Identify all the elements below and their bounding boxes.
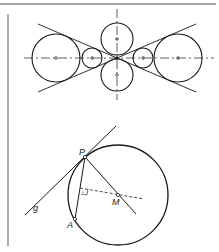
tangent-construction-figure — [25, 126, 168, 245]
center-marker — [55, 57, 58, 60]
circle-large-left — [32, 34, 80, 82]
label-g: g — [33, 203, 38, 213]
label-P: P — [79, 147, 85, 157]
right-angle-dot — [82, 191, 83, 192]
point-A — [73, 217, 76, 220]
geometry-figure: P M A g — [0, 0, 219, 252]
label-A: A — [66, 220, 73, 230]
center-marker — [116, 74, 119, 77]
line-PM — [85, 157, 136, 214]
tangent-circles-figure — [24, 9, 214, 100]
right-angle-mark — [81, 189, 88, 195]
label-M: M — [112, 197, 120, 207]
line-g — [25, 126, 116, 215]
intersection-point — [115, 56, 118, 59]
